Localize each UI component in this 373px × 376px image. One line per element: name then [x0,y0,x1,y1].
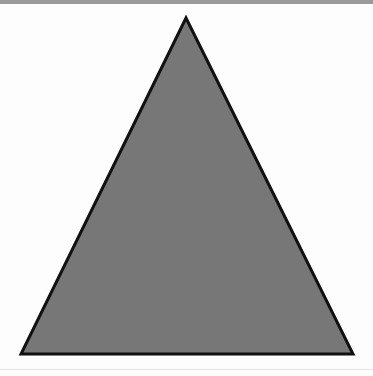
triangle-shape [21,18,353,354]
bottom-divider [0,369,373,370]
figure-canvas [0,0,373,376]
triangle-icon [0,0,373,376]
